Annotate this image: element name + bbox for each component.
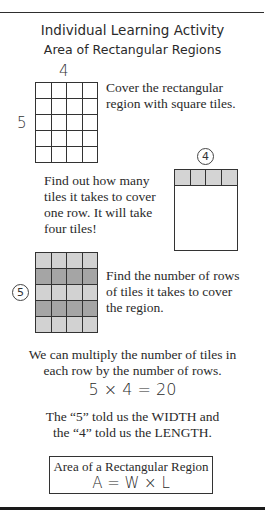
grid-cell xyxy=(83,99,99,115)
step1-line: region with square tiles. xyxy=(106,96,236,112)
grid-cell-light xyxy=(67,253,83,269)
step2-line: one row. It will take xyxy=(44,205,156,221)
top-rule xyxy=(0,12,264,13)
circled-number-4: 4 xyxy=(197,148,214,165)
grid-cell-light xyxy=(83,317,99,333)
grid-cell xyxy=(52,147,68,163)
grid-cell-dark xyxy=(83,269,99,285)
step3-line: Find the number of rows xyxy=(106,268,239,284)
grid-cell xyxy=(36,147,52,163)
grid-cell xyxy=(67,99,83,115)
explanation-line-1: We can multiply the number of tiles in xyxy=(0,347,265,363)
grid-cell xyxy=(67,115,83,131)
grid-cell-dark xyxy=(67,269,83,285)
step2-line: Find out how many xyxy=(44,173,156,189)
step3-line: the region. xyxy=(106,300,239,316)
grid-cell xyxy=(52,99,68,115)
grid-cell xyxy=(83,147,99,163)
row-tile xyxy=(222,170,238,185)
grid-cell-light xyxy=(36,285,52,301)
formula-equation: A = W × L xyxy=(50,474,212,492)
formula-title: Area of a Rectangular Region xyxy=(50,459,212,474)
grid-cell-light xyxy=(83,285,99,301)
grid-cell xyxy=(36,115,52,131)
row-tile xyxy=(191,170,207,185)
grid-side-label: 5 xyxy=(17,114,27,132)
grid-cell-light xyxy=(52,285,68,301)
step1-line: Cover the rectangular xyxy=(106,80,236,96)
grid-cell xyxy=(36,99,52,115)
one-row-rectangle xyxy=(174,169,238,251)
grid-cell-dark xyxy=(52,269,68,285)
grid-cell xyxy=(67,131,83,147)
page-subtitle: Area of Rectangular Regions xyxy=(0,42,265,57)
grid-cell-light xyxy=(52,253,68,269)
shaded-top-row xyxy=(175,170,237,186)
row-tile xyxy=(175,170,191,185)
shaded-tile-grid xyxy=(35,252,98,333)
grid-cell xyxy=(83,131,99,147)
step2-line: tiles it takes to cover xyxy=(44,189,156,205)
multiplication-equation: 5 × 4 = 20 xyxy=(0,380,265,399)
grid-cell-dark xyxy=(52,301,68,317)
grid-cell-light xyxy=(67,285,83,301)
grid-cell-light xyxy=(36,253,52,269)
grid-cell-dark xyxy=(36,269,52,285)
grid-cell xyxy=(67,147,83,163)
grid-cell xyxy=(36,131,52,147)
step2-text: Find out how many tiles it takes to cove… xyxy=(44,173,156,237)
grid-cell-light xyxy=(83,253,99,269)
bottom-rule xyxy=(0,507,265,510)
grid-cell-dark xyxy=(67,301,83,317)
circled-number-5: 5 xyxy=(12,284,29,301)
grid-cell-light xyxy=(36,317,52,333)
grid-cell xyxy=(67,83,83,99)
area-formula-box: Area of a Rectangular Region A = W × L xyxy=(49,456,213,494)
page-title: Individual Learning Activity xyxy=(0,22,265,38)
grid-cell xyxy=(83,115,99,131)
empty-tile-grid xyxy=(35,82,98,163)
explanation-line-3: The “5” told us the WIDTH and xyxy=(0,409,265,425)
step2-line: four tiles! xyxy=(44,221,156,237)
grid-cell xyxy=(83,83,99,99)
row-tile xyxy=(206,170,222,185)
step3-line: of tiles it takes to cover xyxy=(106,284,239,300)
grid-cell xyxy=(52,131,68,147)
step3-text: Find the number of rows of tiles it take… xyxy=(106,268,239,316)
grid-cell-light xyxy=(52,317,68,333)
explanation-line-4: the “4” told us the LENGTH. xyxy=(0,425,265,441)
grid-cell-dark xyxy=(83,301,99,317)
grid-cell xyxy=(52,83,68,99)
explanation-line-2: each row by the number of rows. xyxy=(0,363,265,379)
step1-text: Cover the rectangular region with square… xyxy=(106,80,236,112)
grid-top-label: 4 xyxy=(59,62,69,80)
grid-cell xyxy=(52,115,68,131)
grid-cell xyxy=(36,83,52,99)
grid-cell-dark xyxy=(36,301,52,317)
grid-cell-light xyxy=(67,317,83,333)
